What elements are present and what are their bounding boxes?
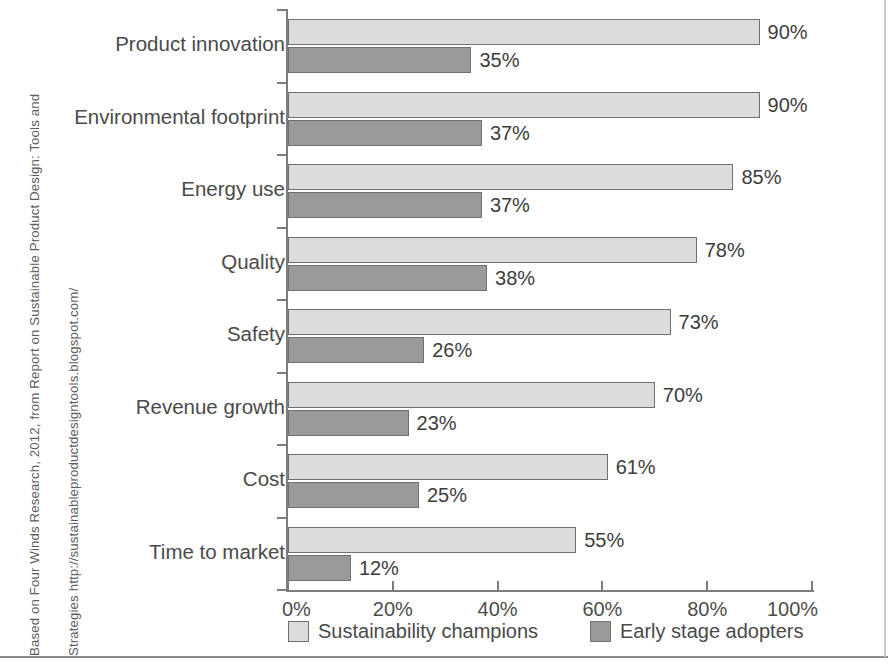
bar-early-stage-adopters <box>288 482 419 508</box>
y-axis-tick <box>277 154 288 156</box>
x-axis-tick-label: 100% <box>767 598 818 621</box>
champions-swatch-icon <box>288 621 309 642</box>
bar-early-stage-adopters <box>288 555 351 581</box>
category-label: Revenue growth <box>136 395 285 419</box>
bar-group: 90%35%Product innovation <box>288 10 812 83</box>
bar-group: 61%25%Cost <box>288 445 812 518</box>
bar-value-early-stage-adopters: 38% <box>495 265 535 291</box>
bar-value-early-stage-adopters: 37% <box>490 120 530 146</box>
category-label: Product innovation <box>115 32 285 56</box>
figure-bottom-rule <box>0 656 888 658</box>
bar-group: 90%37%Environmental footprint <box>288 83 812 156</box>
bar-value-sustainability-champions: 78% <box>705 237 745 263</box>
bar-value-early-stage-adopters: 37% <box>490 192 530 218</box>
x-axis-tick-label: 0% <box>282 598 311 621</box>
adopters-swatch-icon <box>590 621 611 642</box>
bar-value-sustainability-champions: 70% <box>663 382 703 408</box>
y-axis-tick <box>277 517 288 519</box>
bar-early-stage-adopters <box>288 337 424 363</box>
bar-value-early-stage-adopters: 35% <box>479 47 519 73</box>
y-axis-tick <box>277 372 288 374</box>
category-label: Quality <box>221 250 285 274</box>
y-axis-tick <box>277 299 288 301</box>
legend-label-sustainability-champions: Sustainability champions <box>318 619 538 643</box>
bar-value-early-stage-adopters: 26% <box>432 337 472 363</box>
chart-figure: Based on Four Winds Research, 2012, from… <box>0 0 888 667</box>
legend-item-sustainability-champions: Sustainability champions <box>288 619 538 643</box>
y-axis-tick <box>277 227 288 229</box>
bar-early-stage-adopters <box>288 120 482 146</box>
legend: Sustainability champions Early stage ado… <box>288 619 888 649</box>
bar-sustainability-champions <box>288 454 608 480</box>
bar-value-early-stage-adopters: 12% <box>359 555 399 581</box>
source-caption-line-1: Based on Four Winds Research, 2012, from… <box>25 4 45 656</box>
bar-group: 85%37%Energy use <box>288 155 812 228</box>
bar-early-stage-adopters <box>288 192 482 218</box>
bar-group: 70%23%Revenue growth <box>288 373 812 446</box>
category-label: Cost <box>243 467 285 491</box>
bar-sustainability-champions <box>288 19 760 45</box>
y-axis-tick <box>277 444 288 446</box>
category-label: Environmental footprint <box>74 105 285 129</box>
source-caption: Based on Four Winds Research, 2012, from… <box>5 4 45 656</box>
source-caption-line-2: Strategies http://sustainableproductdesi… <box>64 4 84 656</box>
bar-value-sustainability-champions: 85% <box>741 164 781 190</box>
category-label: Time to market <box>149 540 285 564</box>
bar-sustainability-champions <box>288 382 655 408</box>
legend-label-early-stage-adopters: Early stage adopters <box>620 619 803 643</box>
figure-right-rule <box>884 0 886 657</box>
bar-value-sustainability-champions: 55% <box>584 527 624 553</box>
y-axis-tick <box>277 9 288 11</box>
x-axis-tick-label: 40% <box>478 598 518 621</box>
bar-value-early-stage-adopters: 25% <box>427 482 467 508</box>
bar-value-sustainability-champions: 90% <box>768 19 808 45</box>
y-axis-tick <box>277 82 288 84</box>
bar-group: 73%26%Safety <box>288 300 812 373</box>
bar-early-stage-adopters <box>288 410 409 436</box>
category-label: Safety <box>227 322 285 346</box>
bar-value-sustainability-champions: 61% <box>616 454 656 480</box>
legend-item-early-stage-adopters: Early stage adopters <box>590 619 803 643</box>
bar-sustainability-champions <box>288 92 760 118</box>
x-axis-tick-label: 20% <box>373 598 413 621</box>
bar-group: 78%38%Quality <box>288 228 812 301</box>
plot-area: 0%20%40%60%80%100% 90%35%Product innovat… <box>288 10 812 590</box>
bar-value-sustainability-champions: 73% <box>679 309 719 335</box>
bar-sustainability-champions <box>288 237 697 263</box>
x-axis-tick-label: 60% <box>582 598 622 621</box>
bar-sustainability-champions <box>288 527 576 553</box>
bar-sustainability-champions <box>288 164 733 190</box>
x-axis-line <box>286 590 814 592</box>
bar-early-stage-adopters <box>288 265 487 291</box>
bar-group: 55%12%Time to market <box>288 518 812 591</box>
bar-sustainability-champions <box>288 309 671 335</box>
bar-early-stage-adopters <box>288 47 471 73</box>
x-axis-tick-label: 80% <box>687 598 727 621</box>
category-label: Energy use <box>181 177 285 201</box>
bar-value-early-stage-adopters: 23% <box>417 410 457 436</box>
bar-value-sustainability-champions: 90% <box>768 92 808 118</box>
